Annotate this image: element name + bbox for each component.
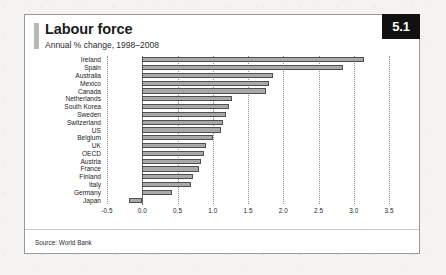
bar: [142, 73, 272, 78]
gridline: [319, 56, 320, 204]
bar: [129, 198, 142, 203]
category-label: US: [92, 127, 101, 134]
category-label: UK: [92, 142, 101, 149]
gridline: [389, 56, 390, 204]
bar: [142, 81, 269, 86]
x-tick-label: 1.0: [208, 207, 217, 214]
page-title: Labour force: [45, 21, 132, 37]
category-label: Japan: [83, 197, 101, 204]
category-label: Australia: [75, 72, 101, 79]
chart-subtitle: Annual % change, 1998–2008: [45, 40, 159, 50]
page-background: Labour force Annual % change, 1998–2008 …: [0, 0, 446, 275]
x-tick-label: 3.0: [349, 207, 358, 214]
bar: [142, 65, 343, 70]
chart-number-badge: 5.1: [382, 14, 420, 39]
bar: [142, 96, 232, 101]
x-tick-label: 0.0: [138, 207, 147, 214]
gridline: [354, 56, 355, 204]
category-label: Canada: [78, 88, 101, 95]
bar: [142, 182, 191, 187]
source-note: Source: World Bank: [35, 239, 92, 246]
bar: [142, 166, 199, 171]
chart-card: Labour force Annual % change, 1998–2008 …: [24, 14, 420, 254]
category-label: Spain: [84, 64, 101, 71]
x-tick-label: 2.5: [314, 207, 323, 214]
x-tick-label: 3.5: [385, 207, 394, 214]
category-label: Germany: [74, 189, 101, 196]
x-tick-label: 1.5: [244, 207, 253, 214]
category-label: Finland: [79, 173, 101, 180]
bar: [142, 135, 213, 140]
bar: [142, 190, 172, 195]
category-label: Ireland: [81, 56, 101, 63]
bar: [142, 127, 221, 132]
category-label: Belgium: [77, 134, 101, 141]
chart-header: Labour force Annual % change, 1998–2008 …: [25, 15, 419, 59]
x-tick-label: -0.5: [101, 207, 112, 214]
category-label: Mexico: [80, 80, 101, 87]
category-axis-labels: IrelandSpainAustraliaMexicoCanadaNetherl…: [25, 56, 105, 204]
bar: [142, 104, 229, 109]
bar: [142, 174, 193, 179]
gridline: [283, 56, 284, 204]
gridline: [107, 56, 108, 204]
category-label: OECD: [82, 150, 101, 157]
title-accent-bar: [34, 23, 39, 49]
category-label: South Korea: [64, 103, 101, 110]
category-label: Netherlands: [65, 95, 101, 102]
bar: [142, 88, 265, 93]
bar: [142, 159, 201, 164]
category-label: Sweden: [77, 111, 101, 118]
bars-and-axis: -0.50.00.51.01.52.02.53.03.5: [105, 56, 421, 221]
category-label: France: [80, 165, 101, 172]
chart-plot-area: IrelandSpainAustraliaMexicoCanadaNetherl…: [25, 56, 421, 221]
gridline: [248, 56, 249, 204]
bar: [142, 151, 203, 156]
x-tick-label: 0.5: [173, 207, 182, 214]
category-label: Italy: [89, 181, 101, 188]
category-label: Switzerland: [67, 119, 101, 126]
bar: [142, 143, 206, 148]
footer-divider: [25, 229, 419, 230]
bar: [142, 112, 226, 117]
category-label: Austria: [80, 158, 101, 165]
bar: [142, 120, 223, 125]
bar: [142, 57, 364, 62]
x-tick-label: 2.0: [279, 207, 288, 214]
